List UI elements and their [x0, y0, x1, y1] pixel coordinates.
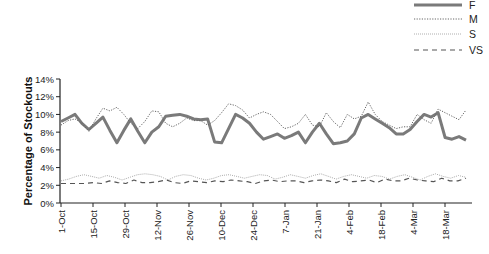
y-tick-label: 12% [35, 91, 55, 102]
y-tick-label: 0% [40, 198, 54, 209]
x-tick-label: 1-Oct [56, 210, 67, 234]
x-tick-label: 24-Dec [248, 210, 259, 241]
y-tick-label: 2% [40, 180, 54, 191]
plot-area [61, 102, 466, 184]
x-tick-label: 10-Dec [216, 210, 227, 241]
legend-item-m: M [414, 13, 478, 25]
x-tick-label: 18-Mar [440, 210, 451, 240]
x-tick-label: 15-Oct [88, 210, 99, 239]
y-tick-label: 14% [35, 74, 55, 85]
series-line-m [61, 102, 466, 131]
series-line-vs [61, 178, 466, 183]
x-tick-label: 26-Nov [184, 210, 195, 241]
x-tick-label: 21-Jan [312, 210, 323, 239]
x-tick-label: 29-Oct [120, 210, 131, 239]
legend-label-vs: VS [469, 44, 483, 56]
stockouts-line-chart: F M S VS Percentage of Stockouts 0%2%4%6… [0, 0, 489, 254]
legend-label-m: M [469, 13, 478, 25]
legend: F M S VS [414, 0, 483, 56]
legend-label-f: F [469, 0, 475, 11]
series-line-f [61, 113, 466, 144]
y-tick-label: 8% [40, 127, 54, 138]
x-axis: 1-Oct15-Oct29-Oct12-Nov26-Nov10-Dec24-De… [56, 203, 473, 241]
y-tick-label: 10% [35, 109, 55, 120]
x-tick-label: 18-Feb [376, 210, 387, 240]
y-axis: 0%2%4%6%8%10%12%14% [35, 74, 60, 209]
legend-item-s: S [414, 28, 476, 40]
y-tick-label: 4% [40, 162, 54, 173]
legend-item-f: F [414, 0, 475, 11]
legend-label-s: S [469, 28, 476, 40]
x-tick-label: 7-Jan [280, 210, 291, 234]
y-axis-title: Percentage of Stockouts [22, 77, 34, 206]
x-tick-label: 12-Nov [152, 210, 163, 241]
x-tick-label: 4-Feb [344, 210, 355, 235]
legend-item-vs: VS [414, 44, 483, 56]
y-tick-label: 6% [40, 144, 54, 155]
x-tick-label: 4-Mar [408, 210, 419, 235]
